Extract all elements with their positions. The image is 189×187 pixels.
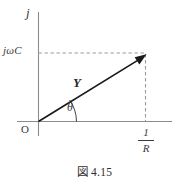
imaginary-value-label: jωC [3,45,22,56]
figure-container: j jωC Y θ O 1 R 図 4.15 [0,0,189,187]
phasor-diagram [0,0,189,187]
imaginary-axis-label: j [26,6,30,19]
vector-y-arrowhead [135,54,147,64]
fraction-denominator: R [137,141,155,155]
origin-label: O [21,124,29,135]
figure-caption: 図 4.15 [0,163,189,179]
vector-y-shaft [39,59,141,122]
vector-label: Y [73,76,81,89]
real-value-fraction-label: 1 R [137,126,155,154]
angle-label: θ [67,101,73,113]
fraction-numerator: 1 [137,126,155,140]
